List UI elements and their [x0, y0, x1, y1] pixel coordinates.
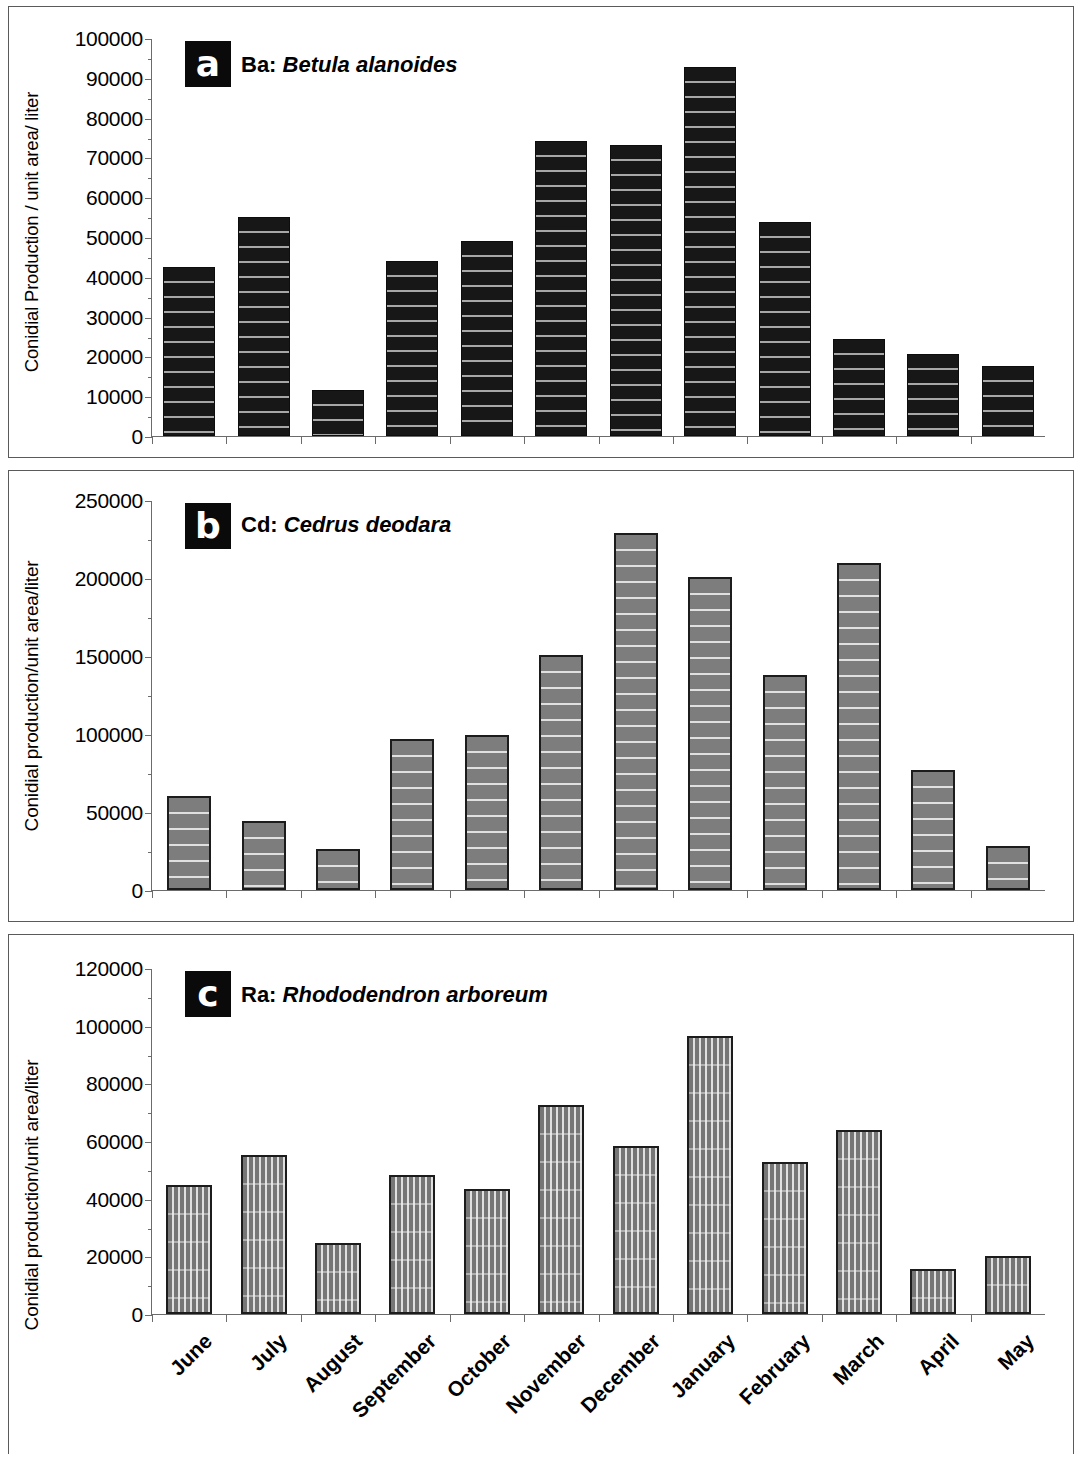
panel-b-badge: b [185, 503, 231, 549]
bar-july [238, 217, 290, 436]
x-tickmark [301, 436, 302, 444]
x-tickmark [524, 436, 525, 444]
bar-august [316, 849, 360, 890]
pc-y-minor-tick [148, 998, 152, 999]
panel-a-badge: a [185, 41, 231, 87]
panel-a-title: Ba: Betula alanoides [241, 52, 457, 78]
pa-y-tickmark-60000 [145, 198, 152, 199]
pb-y-minor-tick [148, 696, 152, 697]
bar-slot [599, 969, 673, 1314]
pb-y-tick-250000: 250000 [75, 489, 143, 513]
pb-y-tickmark-100000 [145, 735, 152, 736]
x-tickmark [599, 890, 600, 898]
pa-y-tickmark-90000 [145, 79, 152, 80]
pa-y-minor-tick [148, 258, 152, 259]
panel-b-title: Cd: Cedrus deodara [241, 512, 451, 538]
pc-y-minor-tick [148, 1286, 152, 1287]
pa-y-tickmark-80000 [145, 119, 152, 120]
bar-slot [747, 39, 821, 436]
x-tickmark [301, 890, 302, 898]
panel-c-y-tick-labels: 020000400006000080000100000120000 [35, 969, 143, 1315]
x-label-june: June [166, 1329, 218, 1381]
pa-y-tick-60000: 60000 [86, 186, 143, 210]
bar-december [610, 145, 662, 436]
bar-slot [822, 501, 896, 890]
x-tickmark [226, 890, 227, 898]
bar-slot [673, 501, 747, 890]
pc-y-tick-100000: 100000 [75, 1015, 143, 1039]
x-label-august: August [298, 1329, 366, 1397]
pc-y-tick-80000: 80000 [86, 1072, 143, 1096]
bar-june [166, 1185, 212, 1314]
bar-february [759, 222, 811, 436]
bar-august [312, 390, 364, 436]
pa-y-tickmark-40000 [145, 278, 152, 279]
bar-november [539, 655, 583, 890]
bar-slot [971, 501, 1045, 890]
pc-y-tick-20000: 20000 [86, 1245, 143, 1269]
pa-y-minor-tick [148, 377, 152, 378]
x-tickmark [375, 1314, 376, 1322]
x-tickmark [673, 1314, 674, 1322]
x-tickmark [747, 890, 748, 898]
x-tickmark [450, 1314, 451, 1322]
pa-y-tick-50000: 50000 [86, 226, 143, 250]
pa-y-tick-70000: 70000 [86, 146, 143, 170]
x-tickmark [524, 890, 525, 898]
pc-y-minor-tick [148, 1113, 152, 1114]
panel-a-y-tick-labels: 0100002000030000400005000060000700008000… [35, 39, 143, 437]
bar-july [242, 821, 286, 890]
pb-y-tick-200000: 200000 [75, 567, 143, 591]
x-tickmark [152, 1314, 153, 1322]
bar-february [762, 1162, 808, 1314]
pa-y-tickmark-70000 [145, 158, 152, 159]
bar-slot [822, 39, 896, 436]
pa-y-tickmark-10000 [145, 397, 152, 398]
x-tickmark [152, 890, 153, 898]
pc-y-tick-0: 0 [132, 1303, 143, 1327]
x-label-december: December [576, 1329, 665, 1418]
pb-y-tickmark-150000 [145, 657, 152, 658]
pa-y-tickmark-100000 [145, 39, 152, 40]
pa-y-minor-tick [148, 218, 152, 219]
x-tickmark [524, 1314, 525, 1322]
x-tickmark [747, 1314, 748, 1322]
bar-slot [599, 501, 673, 890]
bar-april [910, 1269, 956, 1314]
bar-march [833, 339, 885, 436]
bar-february [763, 675, 807, 890]
bar-slot [450, 969, 524, 1314]
bar-january [688, 577, 732, 890]
bar-november [535, 141, 587, 436]
pb-y-minor-tick [148, 852, 152, 853]
pa-y-tickmark-30000 [145, 318, 152, 319]
pa-y-tick-20000: 20000 [86, 345, 143, 369]
x-tickmark [971, 1314, 972, 1322]
bar-slot [673, 969, 747, 1314]
figure-conidial-production: Conidial Production / unit area/ liter 0… [0, 0, 1082, 1466]
bar-june [167, 796, 211, 890]
pb-y-tickmark-50000 [145, 813, 152, 814]
panel-b-axes [151, 501, 1045, 891]
bar-may [982, 366, 1034, 436]
bar-slot [896, 39, 970, 436]
pa-y-minor-tick [148, 99, 152, 100]
pa-y-tick-0: 0 [132, 425, 143, 449]
bar-march [836, 1130, 882, 1314]
panel-b: Conidial production/unit area/liter 0500… [8, 470, 1074, 922]
bar-august [315, 1243, 361, 1314]
pb-y-minor-tick [148, 618, 152, 619]
panel-c-plot: Conidial production/unit area/liter 0200… [9, 935, 1073, 1454]
bar-december [614, 533, 658, 890]
panel-c-bars [152, 969, 1045, 1314]
x-tickmark [673, 436, 674, 444]
x-tickmark [152, 436, 153, 444]
bar-september [389, 1175, 435, 1314]
x-tickmark [301, 1314, 302, 1322]
x-tickmark [896, 436, 897, 444]
panel-c-badge: c [185, 971, 231, 1017]
pa-y-tick-30000: 30000 [86, 306, 143, 330]
x-label-november: November [501, 1329, 591, 1419]
bar-slot [747, 969, 821, 1314]
x-tickmark [896, 1314, 897, 1322]
